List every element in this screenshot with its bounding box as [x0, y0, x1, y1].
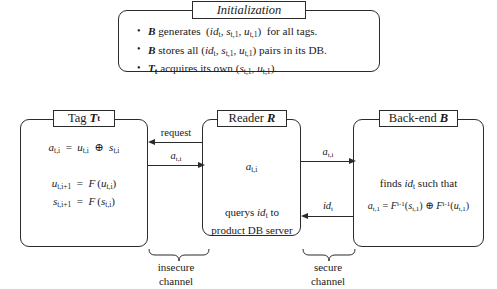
list-item: Tt acquires its own (st,1, ut,1).: [136, 61, 376, 80]
arrow-backend-to-reader-label: idt: [303, 200, 353, 213]
tag-equation-1: at,i = ut,i ⊕ st,i: [20, 140, 148, 158]
arrow-backend-to-reader-line: [303, 216, 353, 217]
channel-secure-label: secure channel: [288, 261, 368, 288]
arrow-tag-to-reader-label: at,i: [150, 150, 202, 163]
reader-value: at,i: [202, 159, 301, 177]
reader-query-text: querys idt to product DB server: [196, 205, 308, 237]
channel-secure-line-1: secure: [288, 261, 368, 275]
arrow-reader-to-backend-head: [349, 158, 356, 164]
arrow-tag-to-reader-line: [148, 165, 200, 166]
initialization-bullet-list: B generates (idt, st,1, ut,1) for all ta…: [136, 24, 376, 80]
insecure-channel-brace: [149, 249, 209, 261]
arrow-backend-to-reader-head: [301, 213, 308, 219]
list-item: B generates (idt, st,1, ut,1) for all ta…: [136, 24, 376, 43]
channel-secure-line-2: channel: [288, 275, 368, 289]
channel-insecure-line-2: channel: [136, 275, 216, 289]
reader-query-line-1: querys idt to: [196, 205, 308, 223]
tag-caption-symbol: T: [90, 112, 98, 125]
arrow-request-line: [150, 142, 202, 143]
initialization-caption: Initialization: [192, 1, 306, 19]
list-item: B stores all (idt, st,1, ut,1) pairs in …: [136, 43, 376, 62]
tag-equation-2-line-1: ut,i+1 = F (ut,i): [20, 176, 148, 194]
initialization-caption-label: Initialization: [217, 4, 282, 17]
channel-insecure-label: insecure channel: [136, 261, 216, 288]
tag-caption: Tag Tt: [53, 110, 115, 127]
arrow-reader-to-backend-label: at,i: [302, 146, 354, 159]
backend-equation: at,1 = Fi-1(st,1) ⊕ Fi-1(ut,1): [347, 196, 490, 216]
arrow-reader-to-backend-line: [301, 161, 353, 162]
protocol-diagram: Initialization B generates (idt, st,1, u…: [0, 0, 497, 289]
bullet-3-entity: T: [148, 62, 155, 74]
backend-caption: Back-end B: [379, 110, 458, 127]
arrow-tag-to-reader-head: [198, 162, 205, 168]
arrow-request-head: [148, 139, 155, 145]
secure-channel-brace: [303, 249, 355, 261]
backend-finds-text: finds idt such that: [353, 176, 484, 194]
backend-caption-word: Back-end: [389, 112, 437, 125]
reader-caption-symbol: R: [267, 112, 275, 125]
tag-equation-2: ut,i+1 = F (ut,i) st,i+1 = F (st,i): [20, 176, 148, 212]
reader-query-line-2: product DB server: [196, 223, 308, 237]
arrow-request-label: request: [152, 127, 200, 138]
tag-caption-symbol-sub: t: [97, 114, 100, 123]
backend-caption-symbol: B: [440, 112, 448, 125]
tag-equation-2-line-2: st,i+1 = F (st,i): [20, 194, 148, 212]
tag-caption-word: Tag: [68, 112, 87, 125]
reader-caption-word: Reader: [229, 112, 264, 125]
reader-caption: Reader R: [217, 110, 287, 127]
channel-insecure-line-1: insecure: [136, 261, 216, 275]
